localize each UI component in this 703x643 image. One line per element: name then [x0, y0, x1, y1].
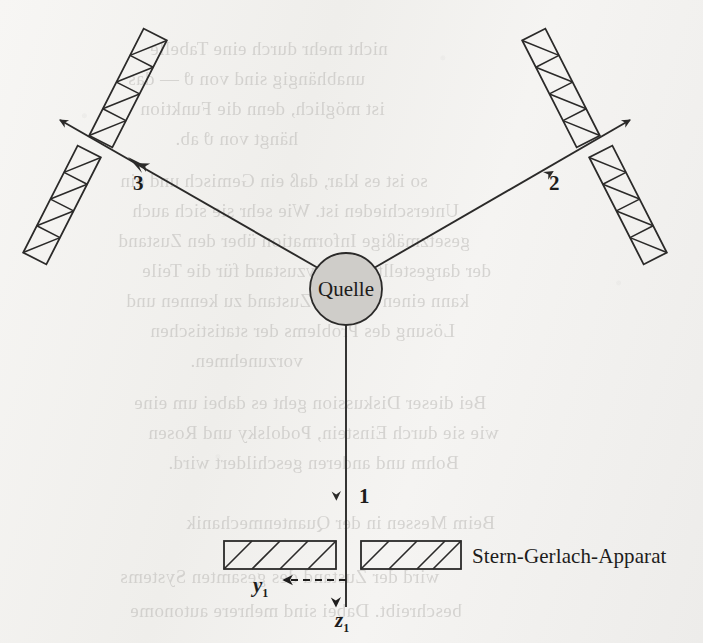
- branch-label-3: 3: [133, 171, 144, 196]
- apparatus-caption: Stern-Gerlach-Apparat: [472, 544, 667, 569]
- beam-line-3: [60, 120, 318, 268]
- magnet-bar: [361, 541, 461, 569]
- axis-label-z1: z1: [335, 608, 349, 636]
- axis-label-z1-text: z: [335, 608, 343, 632]
- axis-label-y1-subscript: 1: [262, 586, 268, 600]
- beam-line-2: [374, 120, 630, 268]
- axis-label-y1: y1: [253, 573, 268, 601]
- axis-z1-arrow: [331, 597, 341, 607]
- axis-label-y1-text: y: [253, 573, 262, 597]
- stern-gerlach-figure: nicht mehr durch eine Tabelle unabhängig…: [0, 0, 703, 643]
- magnet-bar: [224, 541, 336, 569]
- branch-label-2: 2: [549, 171, 560, 196]
- local-axes: [284, 580, 346, 607]
- magnet-bar: [23, 146, 101, 265]
- magnet-bar: [522, 29, 600, 148]
- beam-lines: [60, 120, 630, 607]
- beam-direction-markers: [128, 157, 556, 501]
- magnet-bar: [589, 146, 667, 265]
- direction-marker-1-head: [332, 491, 341, 501]
- magnet-bar: [89, 29, 167, 148]
- axis-label-z1-subscript: 1: [343, 621, 349, 635]
- source-label: Quelle: [310, 277, 382, 302]
- branch-label-1: 1: [359, 484, 370, 509]
